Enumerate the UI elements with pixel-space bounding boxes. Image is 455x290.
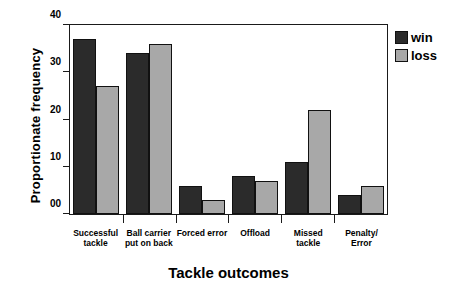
legend-swatch-win (395, 31, 408, 44)
legend-label-win: win (411, 30, 433, 45)
y-axis-tick-label: 00 (50, 198, 61, 209)
bar-win (285, 162, 308, 214)
y-axis-tick (63, 213, 70, 214)
x-axis-tick (281, 214, 282, 223)
bar-chart-figure: Proportionate frequency 0010203040 Succe… (0, 0, 455, 290)
x-axis-category-label: Missed tackle (282, 228, 335, 248)
legend: win loss (395, 30, 437, 66)
bar-group (334, 25, 387, 214)
bar-loss (361, 186, 384, 214)
x-axis-category-label: Successful tackle (69, 228, 122, 248)
x-axis-category-labels: Successful tackleBall carrier put on bac… (69, 228, 388, 248)
y-axis-tick-label: 40 (50, 9, 61, 20)
bar-win (338, 195, 361, 214)
bar-group (70, 25, 123, 214)
x-axis-tick (123, 214, 124, 223)
y-axis-tick (63, 166, 70, 167)
bar-group (123, 25, 176, 214)
bar-loss (202, 200, 225, 214)
x-axis-tick (334, 214, 335, 223)
y-axis-tick (63, 71, 70, 72)
bar-loss (96, 86, 119, 214)
x-axis-tick (228, 214, 229, 223)
bar-group (228, 25, 281, 214)
bar-win (73, 39, 96, 214)
x-axis-category-label: Offload (229, 228, 282, 248)
plot-inner: 0010203040 (70, 25, 387, 214)
legend-label-loss: loss (411, 48, 437, 63)
x-axis-category-label: Forced error (175, 228, 228, 248)
plot-area: 0010203040 (69, 24, 388, 215)
x-axis-tick (176, 214, 177, 223)
bar-group (281, 25, 334, 214)
y-axis-tick (63, 24, 70, 25)
bar-win (232, 176, 255, 214)
y-axis-title: Proportionate frequency (28, 21, 43, 231)
x-axis-title: Tackle outcomes (69, 264, 388, 281)
y-axis-tick-label: 10 (50, 150, 61, 161)
y-axis-tick-label: 30 (50, 56, 61, 67)
bar-group (176, 25, 229, 214)
legend-swatch-loss (395, 49, 408, 62)
bar-win (179, 186, 202, 214)
bar-groups (70, 25, 387, 214)
y-axis-tick-label: 20 (50, 103, 61, 114)
y-axis-tick (63, 119, 70, 120)
x-axis-category-label: Ball carrier put on back (122, 228, 175, 248)
legend-item-loss: loss (395, 48, 437, 63)
bar-win (126, 53, 149, 214)
legend-item-win: win (395, 30, 437, 45)
bar-loss (308, 110, 331, 214)
bar-loss (149, 44, 172, 214)
bar-loss (255, 181, 278, 214)
x-axis-category-label: Penalty/ Error (335, 228, 388, 248)
